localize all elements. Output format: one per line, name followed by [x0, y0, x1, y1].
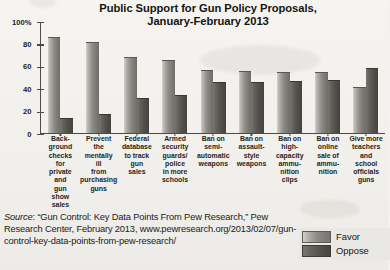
bar-group: [79, 22, 117, 133]
category-label-line: teachers: [348, 143, 385, 151]
chart-title-line-1: Public Support for Gun Policy Proposals,: [62, 2, 354, 15]
category-label-line: online: [309, 143, 346, 151]
category-label-line: gun: [42, 185, 79, 193]
category-label-line: ammu-: [309, 160, 346, 168]
category-label-line: Back-: [42, 135, 79, 143]
category-label-line: schools: [156, 176, 193, 184]
category-label-line: Ban on: [195, 135, 232, 143]
y-axis-tick-label-60: 60: [23, 64, 31, 72]
bar-favor: [86, 42, 99, 133]
bar-oppose: [137, 98, 150, 133]
x-axis-category-label: Preventthementallyillfrompurchasingguns: [80, 135, 118, 193]
category-label-line: nition: [271, 168, 308, 176]
legend-label-favor: Favor: [336, 232, 360, 242]
bar-favor: [353, 87, 366, 133]
category-label-line: database: [118, 143, 155, 151]
category-label-line: Prevent: [80, 135, 117, 143]
category-label-line: security: [156, 143, 193, 151]
legend-item-favor[interactable]: Favor: [302, 231, 386, 243]
bar-group: [41, 22, 79, 133]
category-label-line: Ban on: [233, 135, 270, 143]
category-label-line: checks: [42, 152, 79, 160]
source-text: : “Gun Control: Key Data Points From Pew…: [4, 212, 296, 246]
category-label-line: high-: [271, 143, 308, 151]
category-label-line: capacity: [271, 152, 308, 160]
category-label-line: from: [80, 168, 117, 176]
x-axis-category-label: Back-groundchecksforprivateandgunshowsal…: [41, 135, 79, 210]
category-label-line: sales: [118, 168, 155, 176]
bar-favor: [48, 37, 61, 133]
category-label-line: police: [156, 160, 193, 168]
y-axis-tick-label-0: 0: [27, 131, 31, 139]
x-axis-category-label: Ban onhigh-capacityammu-nitionclips: [271, 135, 309, 185]
bar-oppose: [60, 118, 73, 132]
category-label-line: clips: [271, 176, 308, 184]
x-axis-category-label: Ban onassault-styleweapons: [232, 135, 270, 168]
category-label-line: Ban on: [271, 135, 308, 143]
bar-group: [118, 22, 156, 133]
axes: 100% 80 60 40 20 0: [40, 22, 385, 134]
legend-swatch-favor: [302, 231, 331, 243]
category-label-line: and: [348, 152, 385, 160]
category-label-line: guns: [348, 176, 385, 184]
bar-oppose: [328, 80, 341, 133]
x-axis-category-label: Ban onsemi-automaticweapons: [194, 135, 232, 168]
category-label-line: weapons: [233, 160, 270, 168]
x-axis-category-label: Give moreteachersandschoolofficialsguns: [347, 135, 385, 185]
bar-groups: [41, 22, 385, 133]
y-axis-tick-label-100: 100%: [12, 19, 31, 27]
legend-swatch-oppose: [302, 245, 331, 257]
x-axis-category-label: Ban ononlinesale ofammu-nition: [309, 135, 347, 176]
category-label-line: in more: [156, 168, 193, 176]
category-label-line: semi-: [195, 143, 232, 151]
category-label-line: ammu-: [271, 160, 308, 168]
bar-oppose: [366, 68, 379, 133]
source-note: Source: “Gun Control: Key Data Points Fr…: [4, 211, 304, 247]
category-label-line: assault-: [233, 143, 270, 151]
bar-oppose: [99, 114, 112, 133]
category-label-line: and: [42, 176, 79, 184]
category-label-line: private: [42, 168, 79, 176]
x-axis-category-label: Armedsecurityguards/policein moreschools: [156, 135, 194, 185]
y-axis-tick-label-40: 40: [23, 86, 31, 94]
category-label-line: Ban on: [309, 135, 346, 143]
bar-oppose: [213, 82, 226, 132]
category-label-line: Armed: [156, 135, 193, 143]
x-axis-category-labels: Back-groundchecksforprivateandgunshowsal…: [41, 135, 385, 210]
bar-oppose: [175, 95, 188, 133]
bar-oppose: [290, 81, 303, 132]
category-label-line: guns: [80, 185, 117, 193]
bar-oppose: [251, 82, 264, 132]
legend-label-oppose: Oppose: [336, 246, 369, 256]
bar-group: [194, 22, 232, 133]
category-label-line: Federal: [118, 135, 155, 143]
bar-group: [309, 22, 347, 133]
category-label-line: gun: [118, 160, 155, 168]
bar-favor: [124, 57, 137, 133]
category-label-line: style: [233, 152, 270, 160]
y-axis-tick-label-80: 80: [23, 41, 31, 49]
category-label-line: sale of: [309, 152, 346, 160]
category-label-line: for: [42, 160, 79, 168]
category-label-line: guards/: [156, 152, 193, 160]
legend-item-oppose[interactable]: Oppose: [302, 245, 386, 257]
category-label-line: automatic: [195, 152, 232, 160]
x-axis-category-label: Federaldatabaseto trackgunsales: [118, 135, 156, 176]
category-label-line: officials: [348, 168, 385, 176]
category-label-line: show: [42, 193, 79, 201]
bar-group: [270, 22, 308, 133]
bar-favor: [277, 72, 290, 132]
category-label-line: school: [348, 160, 385, 168]
category-label-line: ill: [80, 160, 117, 168]
bar-group: [156, 22, 194, 133]
bar-favor: [201, 70, 214, 133]
chart-legend: FavorOppose: [299, 228, 390, 260]
source-label: Source: [4, 212, 33, 222]
bar-favor: [162, 60, 175, 133]
bar-group: [347, 22, 385, 133]
category-label-line: to track: [118, 152, 155, 160]
bar-group: [232, 22, 270, 133]
y-axis-tick-label-20: 20: [23, 108, 31, 116]
category-label-line: nition: [309, 168, 346, 176]
